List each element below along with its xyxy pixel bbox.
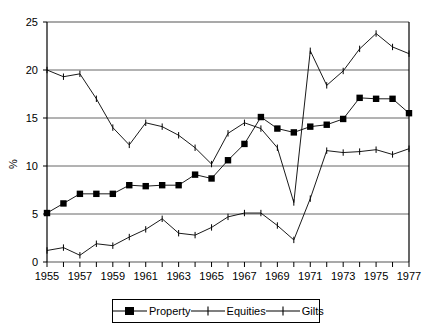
legend-label-property: Property [149, 305, 191, 317]
data-point-marker [208, 175, 214, 181]
series-line [47, 149, 409, 256]
legend-marker-filled-square-icon [113, 305, 147, 317]
data-point-marker [406, 110, 412, 116]
data-point-marker [110, 191, 116, 197]
data-point-marker [143, 183, 149, 189]
data-point-marker [241, 141, 247, 147]
data-point-marker [274, 125, 280, 131]
series-property [44, 95, 412, 217]
data-point-marker [356, 95, 362, 101]
legend-label-gilts: Gilts [302, 305, 324, 317]
legend-item-equities[interactable]: Equities [191, 305, 266, 317]
data-point-marker [258, 114, 264, 120]
data-point-marker [175, 182, 181, 188]
data-point-marker [291, 129, 297, 135]
data-point-marker [307, 123, 313, 129]
data-point-marker [324, 122, 330, 128]
data-point-marker [373, 96, 379, 102]
legend-marker-plus-icon [266, 305, 300, 317]
data-point-marker [159, 182, 165, 188]
data-point-marker [60, 200, 66, 206]
data-point-marker [389, 96, 395, 102]
chart-container: % 0510152025 195519571959196119631965196… [0, 0, 432, 334]
legend-item-property[interactable]: Property [113, 305, 191, 317]
chart-legend: Property Equities Gilts [112, 299, 320, 323]
data-point-marker [192, 171, 198, 177]
series-line [47, 98, 409, 213]
plot-area [0, 0, 432, 334]
data-point-marker [44, 210, 50, 216]
data-point-marker [340, 116, 346, 122]
data-point-marker [126, 182, 132, 188]
data-point-marker [93, 191, 99, 197]
legend-label-equities: Equities [227, 305, 266, 317]
data-point-marker [225, 157, 231, 163]
legend-item-gilts[interactable]: Gilts [266, 305, 324, 317]
legend-marker-plus-icon [191, 305, 225, 317]
data-point-marker [77, 191, 83, 197]
